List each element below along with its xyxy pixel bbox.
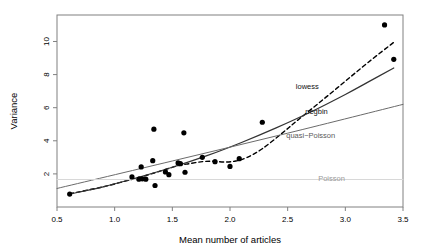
- x-tick-label: 3.0: [340, 215, 352, 224]
- x-tick-label: 0.5: [51, 215, 63, 224]
- x-tick-label: 3.5: [397, 215, 409, 224]
- data-point: [67, 191, 72, 196]
- variance-vs-mean-scatter-plot: 0.51.01.52.02.53.03.5 246810 lowessnegbi…: [0, 0, 424, 252]
- plot-box: [57, 15, 403, 207]
- data-point: [166, 172, 171, 177]
- data-point: [151, 127, 156, 132]
- y-tick-label: 6: [42, 105, 51, 110]
- data-point: [200, 155, 205, 160]
- curve-negbin: [70, 68, 394, 194]
- y-tick-label: 10: [42, 36, 51, 45]
- data-point: [382, 22, 387, 27]
- data-point: [150, 158, 155, 163]
- curve-label-lowess: lowess: [296, 82, 319, 91]
- x-axis: 0.51.01.52.02.53.03.5: [51, 207, 409, 224]
- x-tick-label: 2.5: [282, 215, 294, 224]
- y-axis: 246810: [42, 36, 57, 176]
- x-tick-label: 1.0: [109, 215, 121, 224]
- data-point: [143, 177, 148, 182]
- curve-label-negbin: negbin: [305, 107, 328, 116]
- curve-label-poisson: Poisson: [318, 174, 345, 183]
- data-point: [129, 174, 134, 179]
- data-point: [139, 164, 144, 169]
- plot-frame: [57, 15, 403, 207]
- curve-label-quasi-poisson: quasi−Poisson: [286, 131, 335, 140]
- y-tick-label: 2: [42, 171, 51, 176]
- curve-lowess: [70, 42, 394, 193]
- x-tick-label: 1.5: [167, 215, 179, 224]
- y-tick-label: 4: [42, 138, 51, 143]
- y-axis-title: Variance: [8, 93, 19, 130]
- data-point: [152, 183, 157, 188]
- x-tick-label: 2.0: [224, 215, 236, 224]
- data-point: [212, 159, 217, 164]
- plot-canvas: 0.51.01.52.02.53.03.5 246810 lowessnegbi…: [0, 0, 424, 252]
- data-points: [67, 22, 396, 196]
- data-point: [237, 156, 242, 161]
- y-tick-label: 8: [42, 72, 51, 77]
- data-point: [260, 120, 265, 125]
- data-point: [182, 170, 187, 175]
- data-point: [227, 164, 232, 169]
- curve-labels: lowessnegbinquasi−PoissonPoisson: [286, 82, 345, 183]
- regression-curves: [57, 42, 403, 194]
- data-point: [178, 161, 183, 166]
- x-axis-title: Mean number of articles: [179, 234, 281, 245]
- data-point: [391, 57, 396, 62]
- data-point: [181, 130, 186, 135]
